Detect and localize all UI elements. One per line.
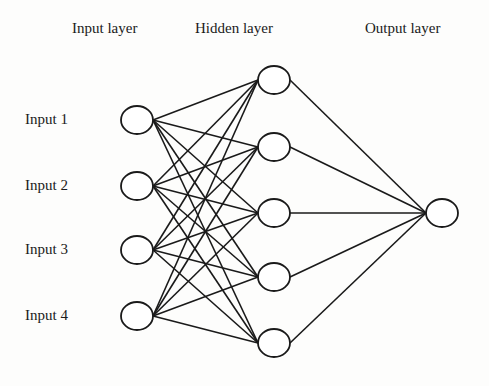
neural-network-diagram: Input layer Hidden layer Output layer In…: [0, 0, 489, 386]
hidden-node-5: [258, 329, 290, 357]
hidden-node-4: [258, 263, 290, 291]
hidden-node-3: [258, 199, 290, 227]
input-node-1: [121, 106, 153, 134]
connection-line: [290, 213, 426, 277]
input-node-3: [121, 236, 153, 264]
input-node-4: [121, 302, 153, 330]
connection-line: [290, 80, 426, 213]
connection-line: [290, 147, 426, 213]
connection-line: [153, 80, 258, 250]
output-node-1: [426, 199, 458, 227]
hidden-node-1: [258, 66, 290, 94]
hidden-node-2: [258, 133, 290, 161]
connection-line: [290, 213, 426, 343]
input-node-2: [121, 172, 153, 200]
nodes: [121, 66, 458, 357]
network-graph: [0, 0, 489, 386]
connection-line: [153, 147, 258, 316]
